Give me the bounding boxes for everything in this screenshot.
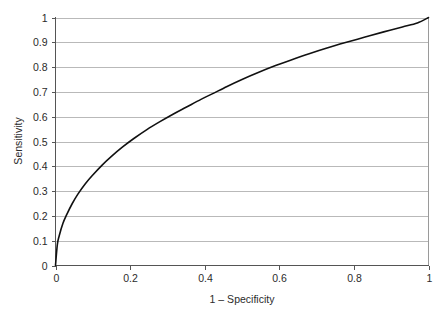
x-tick-label-3: 0.6 bbox=[272, 272, 287, 284]
x-tick-label-5: 1 bbox=[427, 272, 433, 284]
y-tick-label-3: 0.3 bbox=[33, 185, 48, 197]
x-axis-title: 1 – Specificity bbox=[210, 293, 276, 305]
roc-chart-figure: 00.10.20.30.40.50.60.70.80.91 00.20.40.6… bbox=[0, 0, 448, 319]
y-tick-label-9: 0.9 bbox=[33, 36, 48, 48]
x-tick-label-1: 0.2 bbox=[123, 272, 138, 284]
y-axis-title: Sensitivity bbox=[12, 117, 24, 165]
y-tick-label-4: 0.4 bbox=[33, 160, 48, 172]
y-tick-label-5: 0.5 bbox=[33, 136, 48, 148]
y-tick-label-10: 1 bbox=[42, 12, 48, 24]
x-tick-label-2: 0.4 bbox=[198, 272, 213, 284]
y-tick-label-0: 0 bbox=[42, 260, 48, 272]
y-tick-label-1: 0.1 bbox=[33, 235, 48, 247]
y-tick-label-2: 0.2 bbox=[33, 210, 48, 222]
roc-chart-svg: 00.10.20.30.40.50.60.70.80.91 00.20.40.6… bbox=[0, 0, 448, 319]
chart-background bbox=[0, 0, 448, 319]
y-tick-label-8: 0.8 bbox=[33, 61, 48, 73]
y-tick-label-7: 0.7 bbox=[33, 86, 48, 98]
y-tick-label-6: 0.6 bbox=[33, 111, 48, 123]
x-tick-label-0: 0 bbox=[54, 272, 60, 284]
x-tick-label-4: 0.8 bbox=[347, 272, 362, 284]
